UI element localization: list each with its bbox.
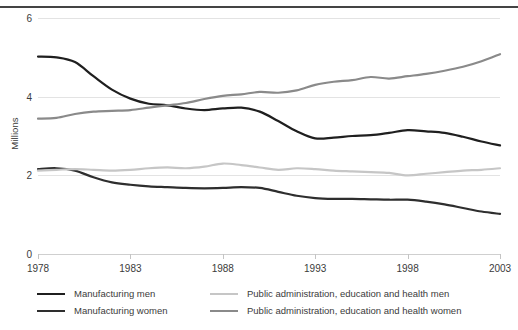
chart-legend: Manufacturing menManufacturing womenPubl… (0, 288, 518, 328)
plot-area: 0246 197819831988199319982003 (38, 18, 500, 254)
series-line (38, 163, 500, 175)
legend-color-swatch (210, 293, 238, 295)
x-axis-tick-mark (408, 254, 409, 259)
legend-item[interactable]: Manufacturing men (37, 288, 155, 299)
top-border-rule (0, 6, 518, 8)
legend-color-swatch (37, 310, 65, 312)
x-axis-baseline (38, 254, 500, 255)
x-axis-tick-mark (500, 254, 501, 259)
legend-item[interactable]: Manufacturing women (37, 305, 167, 316)
x-axis-tick-mark (315, 254, 316, 259)
x-axis-tick-mark (223, 254, 224, 259)
y-axis-tick-label: 6 (26, 13, 32, 24)
x-axis-tick-label: 1993 (304, 263, 326, 274)
x-axis-tick-label: 1983 (119, 263, 141, 274)
series-lines-group (38, 18, 500, 254)
legend-label: Public administration, education and hea… (247, 305, 461, 316)
legend-label: Manufacturing women (74, 305, 167, 316)
x-axis-tick-label: 1988 (212, 263, 234, 274)
legend-color-swatch (210, 310, 238, 312)
y-axis-tick-label: 4 (26, 91, 32, 102)
y-axis-tick-label: 2 (26, 170, 32, 181)
x-axis-tick-label: 1998 (396, 263, 418, 274)
legend-color-swatch (37, 293, 65, 295)
legend-item[interactable]: Public administration, education and hea… (210, 305, 461, 316)
x-axis-tick-mark (130, 254, 131, 259)
legend-label: Manufacturing men (74, 288, 155, 299)
legend-item[interactable]: Public administration, education and hea… (210, 288, 449, 299)
y-axis-title: Millions (9, 99, 20, 169)
series-line (38, 168, 500, 214)
chart-figure: Millions 0246 197819831988199319982003 M… (0, 0, 518, 330)
x-axis-tick-label: 1978 (27, 263, 49, 274)
legend-label: Public administration, education and hea… (247, 288, 449, 299)
y-axis-tick-label: 0 (26, 249, 32, 260)
x-axis-tick-mark (38, 254, 39, 259)
series-line (38, 57, 500, 146)
x-axis-tick-label: 2003 (489, 263, 511, 274)
